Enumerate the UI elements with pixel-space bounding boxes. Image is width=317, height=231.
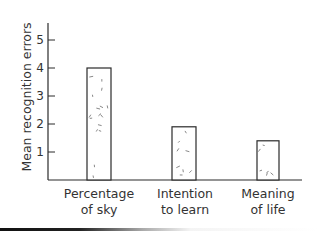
bar-1 <box>87 68 111 180</box>
bar-chart: Mean recognition errors 12345 Percentage… <box>0 0 317 231</box>
y-tick-label: 3 <box>36 89 44 103</box>
x-category-label: Percentageof sky <box>64 186 134 218</box>
y-axis-label: Mean recognition errors <box>19 22 34 171</box>
bar-2 <box>172 127 196 180</box>
y-tick-label: 2 <box>36 117 44 131</box>
page-bottom-rule <box>0 228 317 231</box>
y-tick-label: 4 <box>36 61 44 75</box>
x-category-label: Meaningof life <box>241 186 294 218</box>
y-tick-label: 1 <box>36 145 44 159</box>
bar-3 <box>257 141 279 180</box>
y-tick-label: 5 <box>36 33 44 47</box>
x-category-label: Intentionto learn <box>157 186 213 218</box>
